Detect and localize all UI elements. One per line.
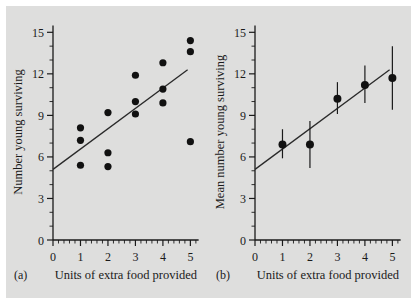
y-axis-title-b: Mean number young surviving: [213, 54, 227, 209]
x-axis-title-a: Units of extra food provided: [55, 268, 198, 282]
data-point: [132, 98, 139, 105]
y-tick-label-a: 6: [38, 150, 44, 164]
x-tick-label-b: 5: [389, 250, 395, 264]
data-point: [159, 99, 166, 106]
data-point: [187, 48, 194, 55]
x-tick-label-a: 4: [160, 250, 166, 264]
x-tick-label-b: 1: [279, 250, 285, 264]
data-point: [187, 37, 194, 44]
data-point: [361, 81, 369, 89]
data-point: [104, 163, 111, 170]
axes-a: [47, 25, 199, 246]
data-points-a: [77, 37, 194, 170]
data-point: [278, 140, 286, 148]
data-point: [306, 140, 314, 148]
x-tick-label-b: 3: [334, 250, 340, 264]
figure-panel: 03691215012345Units of extra food provid…: [6, 6, 411, 298]
axes-b: [249, 25, 401, 246]
data-point: [132, 72, 139, 79]
x-tick-label-a: 0: [50, 250, 56, 264]
data-point: [77, 137, 84, 144]
y-tick-label-a: 12: [32, 67, 44, 81]
data-point: [104, 149, 111, 156]
x-axis-title-b: Units of extra food provided: [257, 268, 400, 282]
scatter-plot-b: 03691215012345Units of extra food provid…: [210, 6, 410, 298]
y-tick-label-b: 12: [234, 67, 246, 81]
x-tick-label-b: 2: [307, 250, 313, 264]
y-tick-label-b: 3: [240, 192, 246, 206]
x-tick-label-a: 2: [105, 250, 111, 264]
regression-line-a: [53, 70, 188, 170]
fit-line-group-a: [53, 70, 188, 170]
axis-labels-a: 03691215012345Units of extra food provid…: [11, 26, 198, 282]
data-point: [77, 124, 84, 131]
data-point: [159, 59, 166, 66]
y-tick-label-a: 15: [32, 26, 44, 40]
data-point: [159, 85, 166, 92]
y-tick-label-b: 6: [240, 150, 246, 164]
data-point: [388, 74, 396, 82]
y-tick-label-a: 0: [38, 234, 44, 248]
y-tick-label-b: 15: [234, 26, 246, 40]
y-tick-label-b: 0: [240, 234, 246, 248]
data-point: [187, 138, 194, 145]
fit-line-group-b: [255, 70, 390, 170]
y-tick-label-a: 3: [38, 192, 44, 206]
panel-letter-b: (b): [216, 268, 230, 282]
x-tick-label-a: 1: [77, 250, 83, 264]
x-tick-label-a: 5: [187, 250, 193, 264]
x-tick-label-b: 4: [362, 250, 368, 264]
error-bars-b: [282, 46, 392, 168]
axis-labels-b: 03691215012345Units of extra food provid…: [213, 26, 400, 282]
chart-panel-a: 03691215012345Units of extra food provid…: [8, 6, 208, 298]
y-axis-title-a: Number young surviving: [11, 68, 25, 194]
regression-line-b: [255, 70, 390, 170]
y-tick-label-a: 9: [38, 109, 44, 123]
x-tick-label-b: 0: [252, 250, 258, 264]
data-point: [104, 109, 111, 116]
chart-panel-b: 03691215012345Units of extra food provid…: [210, 6, 410, 298]
scatter-plot-a: 03691215012345Units of extra food provid…: [8, 6, 208, 298]
y-tick-label-b: 9: [240, 109, 246, 123]
data-point: [132, 110, 139, 117]
data-point: [333, 95, 341, 103]
data-point: [77, 162, 84, 169]
panel-letter-a: (a): [14, 268, 27, 282]
x-tick-label-a: 3: [132, 250, 138, 264]
